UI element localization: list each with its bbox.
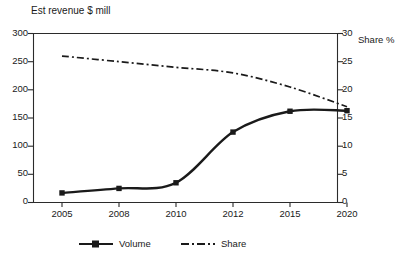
series-markers-volume: [59, 108, 349, 196]
chart-container: Est revenue $ mill Share % 300 250 200 1…: [0, 0, 412, 262]
chart-legend: Volume Share: [0, 236, 412, 256]
data-point-marker: [287, 109, 292, 114]
legend-label-share: Share: [221, 238, 246, 250]
data-point-marker: [230, 129, 235, 134]
legend-label-volume: Volume: [119, 238, 151, 250]
legend-swatch-share-icon: [180, 238, 216, 250]
right-axis-ticks: [338, 34, 344, 203]
data-point-marker: [59, 190, 64, 195]
legend-item-volume: Volume: [78, 236, 151, 252]
left-axis-ticks: [28, 34, 34, 203]
legend-item-share: Share: [180, 236, 246, 252]
series-line-volume: [62, 110, 347, 193]
legend-swatch-volume-icon: [78, 238, 114, 250]
data-point-marker: [173, 180, 178, 185]
plot-area: [0, 0, 412, 262]
data-point-marker: [116, 186, 121, 191]
series-line-share: [62, 56, 347, 107]
x-axis-ticks: [62, 203, 347, 208]
data-point-marker: [344, 108, 349, 113]
